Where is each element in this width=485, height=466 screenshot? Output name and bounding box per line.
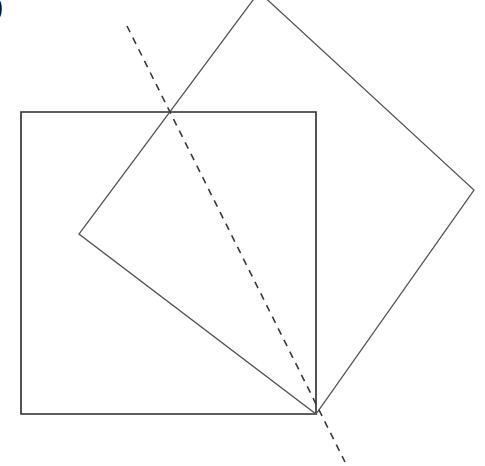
rotated-square (79, 0, 474, 414)
figure-root: ) (0, 0, 485, 466)
geometry-canvas (0, 0, 485, 466)
axis-aligned-square (21, 112, 316, 414)
dashed-diagonal-line (127, 26, 345, 462)
